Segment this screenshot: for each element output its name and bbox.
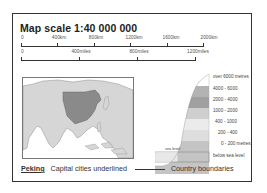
km-scale-line — [21, 46, 203, 47]
capital-example: Peking — [21, 164, 45, 173]
km-scale-bar: 0 400km 800km 1200km 1600km 2000km — [21, 35, 216, 49]
miles-label-400: 400miles — [71, 49, 90, 54]
km-label-1600: 1600km — [162, 35, 179, 40]
km-label-0: 0 — [21, 35, 24, 40]
km-label-2000: 2000km — [200, 35, 217, 40]
map-key-footer: Peking Capital cities underlined Country… — [21, 164, 234, 173]
miles-scale-bar: 0 400miles 800miles 1200miles — [21, 49, 216, 63]
band-label-200-400: 200 - 400 — [218, 130, 237, 135]
band-label-over-6000: over 6000 metres — [213, 74, 249, 79]
map-scale-title: Map scale 1:40 000 000 — [20, 22, 137, 34]
band-label-2000-4000: 2000 - 4000 — [213, 97, 238, 102]
km-label-1200: 1200km — [125, 35, 142, 40]
capital-note: Capital cities underlined — [51, 164, 127, 173]
miles-label-800: 800miles — [129, 49, 148, 54]
elevation-legend: sea level over 6000 metres 4000 - 6000 2… — [155, 74, 255, 174]
miles-scale-line — [21, 60, 195, 61]
boundary-line-symbol — [135, 169, 165, 170]
km-label-800: 800km — [89, 35, 103, 40]
locator-map — [22, 77, 134, 159]
km-label-400: 400km — [52, 35, 66, 40]
boundary-note: Country boundaries — [171, 164, 234, 173]
map-key-panel: Map scale 1:40 000 000 0 400km 800km 120… — [12, 13, 252, 182]
band-label-400-1000: 400 - 1000 — [215, 119, 237, 124]
svg-text:sea level: sea level — [165, 147, 180, 151]
miles-label-1200: 1200miles — [187, 49, 209, 54]
band-label-4000-6000: 4000 - 6000 — [213, 86, 238, 91]
band-label-below-sea-level: below sea level — [213, 153, 244, 158]
band-label-0-200: 0 - 200 metres — [221, 141, 251, 146]
asia-map-graphic — [23, 78, 133, 158]
band-label-1000-2000: 1000 - 2000 — [213, 108, 238, 113]
elevation-profile-graphic: sea level — [155, 74, 215, 174]
miles-label-0: 0 — [21, 49, 24, 54]
